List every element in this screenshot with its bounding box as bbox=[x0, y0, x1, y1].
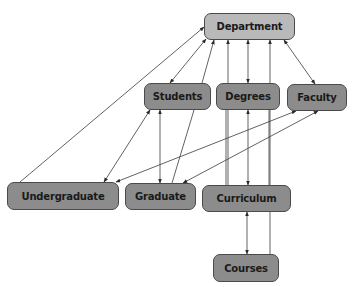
edge-students-department bbox=[170, 39, 206, 83]
node-label: Graduate bbox=[135, 191, 186, 202]
diagram-canvas: DepartmentStudentsDegreesFacultyUndergra… bbox=[0, 0, 356, 287]
node-label: Department bbox=[217, 21, 283, 32]
edge-faculty-department bbox=[284, 40, 315, 84]
edge-graduate-department bbox=[202, 40, 214, 83]
node-curriculum: Curriculum bbox=[202, 185, 291, 212]
edges-layer bbox=[0, 0, 356, 287]
node-label: Faculty bbox=[297, 92, 336, 103]
node-label: Curriculum bbox=[217, 193, 277, 204]
node-degrees: Degrees bbox=[216, 83, 280, 110]
node-faculty: Faculty bbox=[287, 84, 347, 111]
node-department: Department bbox=[204, 13, 295, 40]
edge-graduate-students_line bbox=[172, 110, 194, 183]
node-label: Degrees bbox=[225, 91, 270, 102]
node-undergraduate: Undergraduate bbox=[7, 182, 119, 210]
node-courses: Courses bbox=[213, 254, 279, 282]
node-graduate: Graduate bbox=[125, 183, 196, 210]
node-label: Courses bbox=[224, 263, 268, 274]
edge-group bbox=[20, 27, 318, 254]
edge-graduate-faculty bbox=[183, 111, 318, 183]
node-label: Students bbox=[153, 91, 202, 102]
node-label: Undergraduate bbox=[22, 191, 105, 202]
node-students: Students bbox=[144, 83, 211, 110]
